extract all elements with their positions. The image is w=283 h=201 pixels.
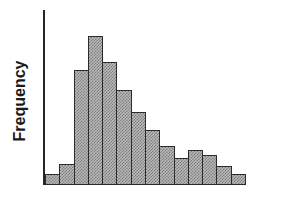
- y-axis-label-text: Frequency: [11, 60, 29, 141]
- histogram-bar: [145, 130, 160, 185]
- histogram-figure: Frequency: [0, 0, 283, 201]
- plot-area: [45, 10, 245, 185]
- y-axis-label: Frequency: [0, 0, 40, 201]
- histogram-bar: [231, 174, 246, 185]
- histogram-bar: [188, 150, 203, 185]
- histogram-bar: [102, 62, 117, 185]
- histogram-bar: [88, 36, 103, 185]
- histogram-bar: [159, 146, 174, 185]
- histogram-bar: [202, 155, 217, 185]
- histogram-bar: [74, 70, 89, 185]
- histogram-bar: [131, 112, 146, 185]
- histogram-bar: [116, 90, 131, 185]
- histogram-bar: [174, 158, 189, 185]
- histogram-bar: [216, 166, 231, 185]
- histogram-bar: [59, 164, 74, 185]
- histogram-bar: [45, 174, 60, 185]
